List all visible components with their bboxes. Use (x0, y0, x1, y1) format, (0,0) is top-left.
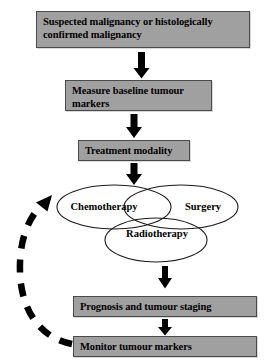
venn-label-surgery[interactable]: Surgery (175, 201, 231, 213)
venn-label-radiotherapy[interactable]: Radiotherapy (113, 228, 201, 240)
arrow-suspected-to-measure-icon (134, 52, 150, 79)
box-prognosis-and-tumour-staging[interactable]: Prognosis and tumour staging (73, 296, 257, 317)
venn-label-chemotherapy[interactable]: Chemotherapy (62, 201, 146, 213)
arrow-prognosis-to-monitor-icon (158, 319, 172, 336)
ellipse-radiotherapy (105, 218, 207, 262)
flowchart-canvas: Suspected malignancy or histologically c… (0, 0, 268, 364)
box-measure-baseline-tumour-markers[interactable]: Measure baseline tumour markers (65, 80, 212, 111)
box-treatment-modality[interactable]: Treatment modality (78, 140, 190, 161)
box-suspected-malignancy[interactable]: Suspected malignancy or histologically c… (36, 11, 250, 48)
arrow-measure-to-treatment-icon (126, 114, 142, 138)
arrow-venn-to-prognosis-icon (158, 266, 172, 289)
venn-diagram (57, 185, 238, 262)
box-monitor-tumour-markers[interactable]: Monitor tumour markers (73, 336, 257, 357)
arrow-treatment-to-venn-icon (126, 163, 142, 185)
